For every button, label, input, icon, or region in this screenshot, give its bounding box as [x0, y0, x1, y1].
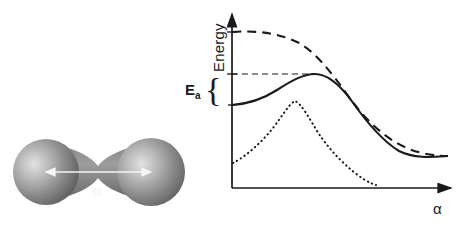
energy-chart-panel: Energy E a { α	[215, 0, 461, 232]
transition-probability-curve	[233, 101, 376, 185]
activation-energy-subscript: a	[195, 90, 201, 101]
molecule-svg: α	[0, 0, 215, 232]
alpha-distance-label: α	[93, 182, 102, 199]
activation-energy-label: E	[185, 81, 195, 98]
y-axis-label: Energy	[210, 23, 227, 72]
energy-diagram-figure: α Energy	[0, 0, 461, 232]
energy-chart-svg: Energy E a { α	[215, 0, 461, 232]
ground-state-curve	[232, 74, 448, 157]
x-axis-label: α	[433, 200, 442, 217]
molecule-panel: α	[0, 0, 215, 232]
activation-energy-brace: {	[205, 71, 221, 108]
